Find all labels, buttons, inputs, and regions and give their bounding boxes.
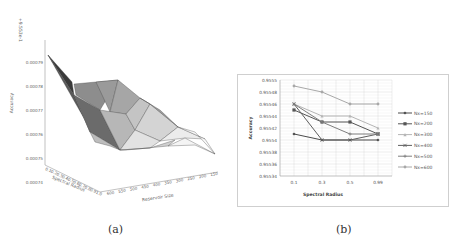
z-axis-label: Accuracy bbox=[9, 92, 14, 113]
reservoir-size-tick: 150 bbox=[210, 171, 219, 177]
z-tick-label: 0.00075 bbox=[26, 156, 44, 161]
legend: Nx=150Nx=200Nx=300Nx=400Nx=500Nx=600 bbox=[398, 111, 433, 170]
y-tick-label: 0.95538 bbox=[259, 150, 277, 155]
line-chart-panel: 0.95550.955480.955460.955440.955420.9554… bbox=[232, 0, 464, 246]
x-tick-label: 0.1 bbox=[291, 180, 298, 185]
legend-label: Nx=500 bbox=[414, 154, 433, 159]
legend-label: Nx=200 bbox=[414, 121, 433, 126]
legend-label: Nx=600 bbox=[414, 165, 433, 170]
reservoir-size-ticks: 600550500450400350300250200150 bbox=[106, 171, 218, 196]
y-tick-label: 0.95536 bbox=[259, 162, 277, 167]
z-tick-label: 0.00078 bbox=[26, 84, 44, 89]
surface-mesh bbox=[48, 55, 215, 154]
spectral-radius-ticks: 0.10.20.30.40.50.60.70.80.91.0 bbox=[45, 166, 104, 197]
y-tick-label: 0.95546 bbox=[259, 102, 277, 107]
y-tick-label: 0.95544 bbox=[259, 114, 277, 119]
x-tick-label: 0.99 bbox=[373, 180, 383, 185]
y-axis-label: Accuracy bbox=[248, 117, 253, 140]
figure-caption-b: (b) bbox=[336, 223, 352, 236]
y-tick-label: 0.95548 bbox=[259, 90, 277, 95]
y-tick-label: 0.9555 bbox=[262, 78, 277, 83]
legend-item: Nx=500 bbox=[398, 154, 433, 159]
reservoir-size-tick: 500 bbox=[129, 186, 138, 192]
legend-item: Nx=600 bbox=[398, 165, 433, 170]
y-tick-label: 0.95542 bbox=[259, 126, 277, 131]
y-tick-label: 0.95534 bbox=[259, 174, 277, 179]
legend-item: Nx=200 bbox=[398, 121, 433, 126]
legend-label: Nx=300 bbox=[414, 132, 433, 137]
x-tick-label: 0.5 bbox=[347, 180, 354, 185]
line-chart: 0.95550.955480.955460.955440.955420.9554… bbox=[232, 0, 464, 246]
legend-label: Nx=400 bbox=[414, 143, 433, 148]
figure-caption-a: (a) bbox=[108, 223, 123, 236]
surface-plot: +9.553e-1 0.000790.000780.000770.000760.… bbox=[0, 0, 232, 246]
z-tick-label: 0.00076 bbox=[26, 132, 44, 137]
reservoir-size-tick: 250 bbox=[187, 175, 196, 181]
reservoir-size-tick: 200 bbox=[198, 173, 207, 179]
y-tick-label: 0.9554 bbox=[262, 138, 277, 143]
reservoir-size-tick: 400 bbox=[152, 181, 161, 187]
reservoir-size-tick: 550 bbox=[118, 188, 127, 194]
z-tick-label: 0.00079 bbox=[26, 60, 44, 65]
reservoir-size-label: Reservoir Size bbox=[142, 193, 174, 203]
z-tick-label: 0.00077 bbox=[26, 108, 44, 113]
x-axis-label: Spectral Radius bbox=[303, 192, 343, 197]
legend-item: Nx=150 bbox=[398, 111, 433, 116]
legend-item: Nx=400 bbox=[398, 143, 433, 148]
axis-offset-label: +9.553e-1 bbox=[18, 18, 23, 42]
x-tick-label: 0.3 bbox=[319, 180, 326, 185]
reservoir-size-tick: 600 bbox=[106, 190, 115, 196]
reservoir-size-tick: 450 bbox=[141, 183, 150, 189]
spectral-radius-tick: 1.0 bbox=[95, 190, 103, 197]
legend-label: Nx=150 bbox=[414, 111, 433, 116]
x-axis-ticks: 0.10.30.50.99 bbox=[291, 180, 383, 185]
surface-plot-panel: +9.553e-1 0.000790.000780.000770.000760.… bbox=[0, 0, 232, 246]
legend-item: Nx=300 bbox=[398, 132, 433, 137]
y-axis-ticks: 0.95550.955480.955460.955440.955420.9554… bbox=[259, 78, 277, 179]
z-tick-label: 0.00074 bbox=[26, 180, 44, 185]
reservoir-size-tick: 300 bbox=[175, 177, 184, 183]
z-axis-ticks: 0.000790.000780.000770.000760.000750.000… bbox=[26, 60, 44, 185]
reservoir-size-tick: 350 bbox=[164, 179, 173, 185]
